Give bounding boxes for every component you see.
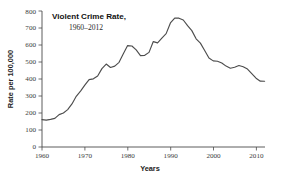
violent-crime-rate-chart: 0 100 200 300 400 500 600 700 800 1960 1… [0, 0, 282, 176]
x-tick-label-1960: 1960 [35, 152, 50, 160]
y-tick-label-700: 700 [25, 24, 36, 32]
y-tick-label-400: 400 [25, 75, 36, 83]
x-tick-label-1980: 1980 [121, 152, 136, 160]
y-tick-label-500: 500 [25, 58, 36, 66]
x-tick-label-2000: 2000 [206, 152, 221, 160]
y-tick-label-600: 600 [25, 41, 36, 49]
x-axis-title: Years [140, 164, 160, 173]
x-tick-label-1990: 1990 [164, 152, 179, 160]
x-tick-label-2010: 2010 [249, 152, 264, 160]
chart-page: 0 100 200 300 400 500 600 700 800 1960 1… [0, 0, 282, 176]
x-tick-label-1970: 1970 [78, 152, 93, 160]
y-tick-label-800: 800 [25, 8, 36, 16]
y-axis-ticks [39, 11, 43, 147]
chart-title: Violent Crime Rate, [52, 12, 126, 21]
y-tick-label-100: 100 [25, 126, 36, 134]
y-tick-label-200: 200 [25, 109, 36, 117]
x-axis-ticks [42, 147, 256, 151]
y-axis-title: Rate per 100,000 [6, 50, 15, 108]
y-tick-label-0: 0 [32, 143, 36, 151]
chart-subtitle: 1960–2012 [69, 23, 103, 32]
y-tick-label-300: 300 [25, 92, 36, 100]
violent-crime-rate-line [42, 18, 265, 120]
